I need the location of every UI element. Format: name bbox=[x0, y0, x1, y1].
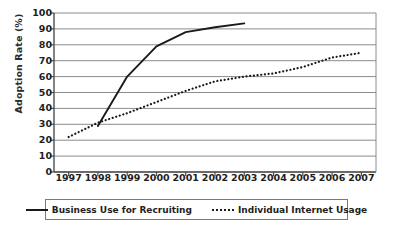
x-tick-label: 2003 bbox=[228, 173, 260, 183]
x-tick-label: 2005 bbox=[287, 173, 319, 183]
y-tick-label: 90 bbox=[26, 24, 52, 34]
x-tick-label: 2007 bbox=[345, 173, 377, 183]
dotted-line-swatch-icon bbox=[212, 209, 234, 211]
x-tick-label: 1999 bbox=[111, 173, 143, 183]
x-tick-label: 1998 bbox=[82, 173, 114, 183]
axis-ticks bbox=[50, 13, 361, 176]
series-line-1 bbox=[98, 23, 244, 126]
y-tick-label: 40 bbox=[26, 103, 52, 113]
legend-item-individual: Individual Internet Usage bbox=[212, 205, 367, 215]
y-tick-label: 80 bbox=[26, 40, 52, 50]
y-axis-title: Adoption Rate (%) bbox=[13, 0, 24, 134]
legend-label-individual: Individual Internet Usage bbox=[238, 205, 367, 215]
x-tick-label: 2002 bbox=[199, 173, 231, 183]
data-series-layer bbox=[69, 23, 362, 137]
x-tick-label: 1997 bbox=[53, 173, 85, 183]
x-tick-label: 2001 bbox=[170, 173, 202, 183]
gridlines bbox=[54, 13, 376, 172]
y-tick-label: 70 bbox=[26, 56, 52, 66]
legend-label-business: Business Use for Recruiting bbox=[52, 205, 192, 215]
y-tick-label: 10 bbox=[26, 151, 52, 161]
line-chart: Adoption Rate (%) 0102030405060708090100… bbox=[0, 0, 394, 231]
solid-line-swatch-icon bbox=[26, 209, 48, 211]
x-axis-tick-labels: 1997199819992000200120022003200420052006… bbox=[0, 173, 394, 189]
chart-legend: Business Use for Recruiting Individual I… bbox=[45, 199, 348, 220]
x-tick-label: 2006 bbox=[316, 173, 348, 183]
legend-item-business: Business Use for Recruiting bbox=[26, 205, 192, 215]
y-tick-label: 60 bbox=[26, 72, 52, 82]
x-tick-label: 2004 bbox=[258, 173, 290, 183]
x-tick-label: 2000 bbox=[140, 173, 172, 183]
plot-area bbox=[0, 0, 394, 231]
y-tick-label: 50 bbox=[26, 88, 52, 98]
y-tick-label: 30 bbox=[26, 119, 52, 129]
y-tick-label: 20 bbox=[26, 135, 52, 145]
y-axis-tick-labels: 0102030405060708090100 bbox=[24, 0, 52, 180]
y-tick-label: 100 bbox=[26, 8, 52, 18]
